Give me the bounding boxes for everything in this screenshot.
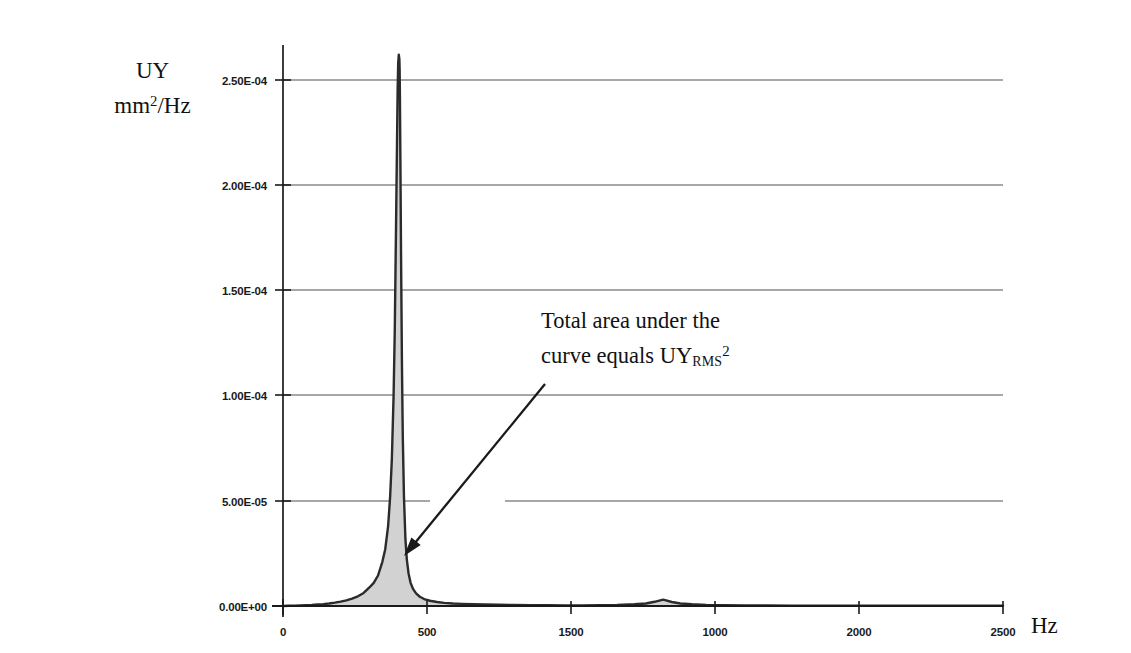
gridlines [283, 80, 1003, 501]
annotation-line-2-prefix: curve equals UY [541, 343, 692, 368]
y-tick-label: 5.00E-05 [222, 496, 268, 508]
x-tick-label: 1000 [703, 626, 728, 638]
psd-chart-figure: 2.50E-04 2.00E-04 1.50E-04 1.00E-04 5.00… [0, 0, 1131, 653]
annotation-arrow [404, 384, 545, 556]
y-axis-title-units-suffix: /Hz [157, 93, 190, 118]
annotation-text: Total area under the curve equals UYRMS2 [537, 304, 736, 379]
annotation-line-1: Total area under the [541, 308, 720, 333]
y-axis-title: UY mm2/Hz [95, 55, 210, 121]
annotation-line-2-sup: 2 [722, 343, 729, 359]
x-tick-label: 2500 [991, 626, 1016, 638]
x-tick-label: 500 [418, 626, 437, 638]
y-tick-labels: 2.50E-04 2.00E-04 1.50E-04 1.00E-04 5.00… [219, 75, 268, 613]
y-tick-label: 1.00E-04 [222, 390, 268, 402]
y-tick-label: 2.00E-04 [222, 180, 268, 192]
x-tick-labels: 0 500 1000 1500 2000 2500 [280, 626, 1016, 638]
x-tick-label: 1500 [559, 626, 584, 638]
figure-root: 2.50E-04 2.00E-04 1.50E-04 1.00E-04 5.00… [0, 0, 1131, 653]
y-tick-label: 1.50E-04 [222, 285, 268, 297]
y-axis-title-line-1: UY [95, 55, 210, 86]
annotation-line-2-sub: RMS [692, 354, 722, 369]
y-axis-title-units-prefix: mm [114, 93, 150, 118]
annotation-mask-lower [430, 480, 505, 510]
x-tick-label: 0 [280, 626, 286, 638]
x-tick-label: 2000 [847, 626, 872, 638]
y-axis-title-line-2: mm2/Hz [95, 86, 210, 121]
x-axis-title: Hz [1031, 613, 1058, 639]
y-tick-label: 2.50E-04 [222, 75, 268, 87]
y-tick-label: 0.00E+00 [219, 601, 267, 613]
